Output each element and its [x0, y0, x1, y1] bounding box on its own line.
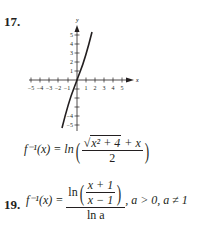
graph-17: x y −5 −4 −3 −2 −1 1 2 3 4 5 5 4 3 2 1 −… — [0, 0, 210, 135]
y-tick-label: −5 — [67, 122, 73, 128]
x-tick-label: 4 — [112, 85, 115, 91]
y-axis-label: y — [75, 17, 79, 23]
left-paren: ( — [75, 139, 79, 163]
denominator: 2 — [109, 151, 115, 165]
fraction: √x² + 4 + x2 — [82, 136, 143, 165]
condition: , a > 0, a ≠ 1 — [125, 193, 188, 207]
y-tick-label: 3 — [70, 50, 73, 56]
x-tick-label: 5 — [121, 85, 124, 91]
inner-numerator: x + 1 — [86, 178, 115, 193]
x-tick-label: 3 — [103, 85, 106, 91]
numerator-tail: + x — [121, 136, 140, 150]
equation-17: f⁻¹(x) = ln(√x² + 4 + x2) — [24, 136, 151, 165]
x-axis-label: x — [135, 77, 139, 83]
y-tick-label: −4 — [67, 113, 73, 119]
y-tick-label: 5 — [70, 32, 73, 38]
x-tick-label: −5 — [28, 85, 34, 91]
x-tick-label: −4 — [37, 85, 43, 91]
x-tick-label: −3 — [46, 85, 52, 91]
x-tick-label: 1 — [85, 85, 88, 91]
right-paren: ) — [145, 139, 149, 163]
x-tick-label: −2 — [55, 85, 61, 91]
sqrt-content: x² + 4 — [90, 135, 121, 150]
outer-denominator: ln a — [87, 208, 105, 222]
y-tick-label: 2 — [70, 59, 73, 65]
y-tick-label: 1 — [70, 68, 73, 74]
outer-fraction: ln(x + 1x − 1) ln a — [66, 178, 125, 222]
x-tick-label: −1 — [64, 85, 70, 91]
ln-label: ln — [68, 185, 77, 199]
y-tick-label: 4 — [70, 41, 73, 47]
equation-19: f⁻¹(x) = ln(x + 1x − 1) ln a , a > 0, a … — [26, 178, 188, 222]
inner-fraction: x + 1x − 1 — [86, 178, 115, 207]
equation-lhs: f⁻¹(x) = — [26, 193, 63, 207]
x-tick-label: 2 — [94, 85, 97, 91]
problem-number-19: 19. — [4, 197, 20, 213]
inner-denominator: x − 1 — [88, 193, 113, 207]
equation-lhs: f⁻¹(x) = ln — [24, 142, 74, 156]
